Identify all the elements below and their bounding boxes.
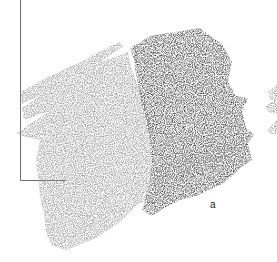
panel-label: a	[210, 199, 216, 210]
figure-panel: a	[0, 0, 277, 262]
dark-gray-swatch	[130, 28, 254, 216]
light-gray-swatch	[16, 42, 152, 250]
scribble-illustration	[0, 0, 277, 262]
right-edge-swatch	[266, 84, 277, 134]
